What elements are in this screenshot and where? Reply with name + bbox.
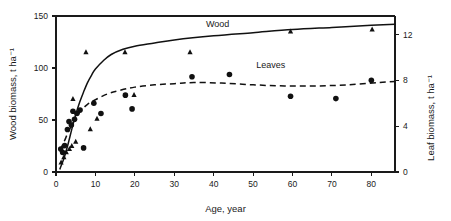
wood-data-point (131, 92, 136, 97)
wood-data-point (83, 49, 88, 54)
x-tick-label: 50 (248, 179, 258, 189)
leaves-data-point (60, 150, 66, 156)
leaves-data-point (69, 122, 75, 128)
series-label-wood: Wood (206, 19, 229, 29)
fit-curves-layer (60, 24, 395, 169)
x-tick-label: 20 (130, 179, 140, 189)
wood-data-point (94, 116, 99, 121)
y-right-tick-label: 12 (403, 30, 413, 40)
wood-data-point (370, 26, 375, 31)
y-left-tick-label: 0 (43, 167, 48, 177)
leaves-data-point (189, 74, 195, 80)
x-tick-label: 40 (209, 179, 219, 189)
y-left-tick-label: 50 (39, 115, 49, 125)
leaves-data-point (81, 145, 87, 151)
x-tick-label: 30 (170, 179, 180, 189)
chart-figure: 0102030405060708005010015004812 WoodLeav… (0, 0, 451, 221)
leaves-data-point (98, 111, 104, 117)
wood-data-point (122, 49, 127, 54)
x-axis-title: Age, year (205, 203, 246, 214)
y-right-tick-label: 4 (403, 121, 408, 131)
y-left-tick-label: 150 (34, 11, 48, 21)
y-left-tick-label: 100 (34, 63, 48, 73)
axis-ticks-layer: 0102030405060708005010015004812 (34, 11, 413, 189)
wood-data-point (73, 139, 78, 144)
leaves-data-point (91, 100, 97, 106)
x-tick-label: 80 (367, 179, 377, 189)
leaves-data-point (65, 127, 71, 133)
series-label-leaves: Leaves (256, 60, 286, 70)
y-axis-left-title: Wood biomass, t ha⁻¹ (7, 48, 18, 140)
leaves-data-point (288, 93, 294, 99)
y-axis-right-title: Leaf biomass, t ha⁻¹ (425, 75, 436, 161)
y-right-tick-label: 0 (403, 167, 408, 177)
y-right-tick-label: 8 (403, 75, 408, 85)
wood-data-point (70, 96, 75, 101)
leaves-data-point (333, 96, 339, 102)
x-tick-label: 10 (91, 179, 101, 189)
series-annotations-layer: WoodLeaves (206, 19, 286, 69)
x-tick-label: 0 (54, 179, 59, 189)
biomass-vs-age-scatter-chart: 0102030405060708005010015004812 WoodLeav… (0, 0, 451, 221)
x-tick-label: 70 (327, 179, 337, 189)
leaves-data-point (369, 77, 375, 83)
leaves-data-point (62, 143, 68, 149)
leaves-data-point (129, 106, 135, 112)
leaves-fit-curve (60, 81, 395, 150)
x-tick-label: 60 (288, 179, 298, 189)
leaves-data-point (72, 116, 78, 122)
leaves-data-point (123, 92, 129, 98)
leaves-data-point (77, 107, 83, 113)
wood-data-point (88, 126, 93, 131)
leaves-data-point (227, 72, 233, 78)
wood-data-point (187, 49, 192, 54)
wood-fit-curve (60, 24, 395, 169)
